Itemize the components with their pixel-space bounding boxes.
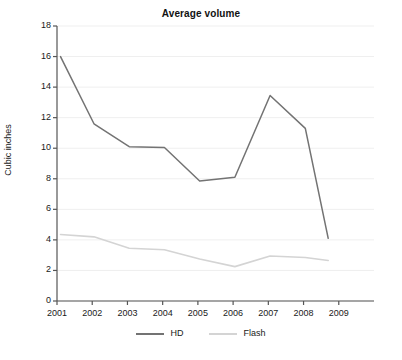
y-tick-label: 18: [25, 20, 51, 30]
y-tick-label: 0: [25, 295, 51, 305]
legend-entry-flash[interactable]: Flash: [209, 329, 265, 338]
x-tick-label: 2004: [143, 308, 183, 318]
plot-area: [0, 0, 402, 360]
x-tick-label: 2005: [178, 308, 218, 318]
legend-entry-hd[interactable]: HD: [136, 329, 183, 338]
chart-legend: HDFlash: [0, 329, 402, 338]
legend-label: HD: [170, 329, 183, 338]
legend-swatch-flash-icon: [209, 333, 237, 335]
y-tick-label: 10: [25, 142, 51, 152]
x-tick-label: 2008: [284, 308, 324, 318]
x-tick-label: 2002: [72, 308, 112, 318]
chart-container: Average volume Cubic inches 024681012141…: [0, 0, 402, 360]
y-tick-label: 2: [25, 264, 51, 274]
legend-label: Flash: [243, 329, 265, 338]
x-tick-label: 2003: [107, 308, 147, 318]
y-tick-label: 6: [25, 203, 51, 213]
series-line-hd: [61, 57, 329, 239]
x-tick-label: 2001: [37, 308, 77, 318]
x-tick-label: 2007: [248, 308, 288, 318]
y-tick-label: 14: [25, 81, 51, 91]
y-tick-label: 4: [25, 234, 51, 244]
series-line-flash: [61, 235, 329, 267]
legend-swatch-hd-icon: [136, 333, 164, 335]
y-tick-label: 12: [25, 112, 51, 122]
y-tick-label: 16: [25, 51, 51, 61]
x-tick-label: 2009: [319, 308, 359, 318]
y-tick-label: 8: [25, 173, 51, 183]
x-tick-label: 2006: [213, 308, 253, 318]
series-lines: [61, 57, 329, 267]
